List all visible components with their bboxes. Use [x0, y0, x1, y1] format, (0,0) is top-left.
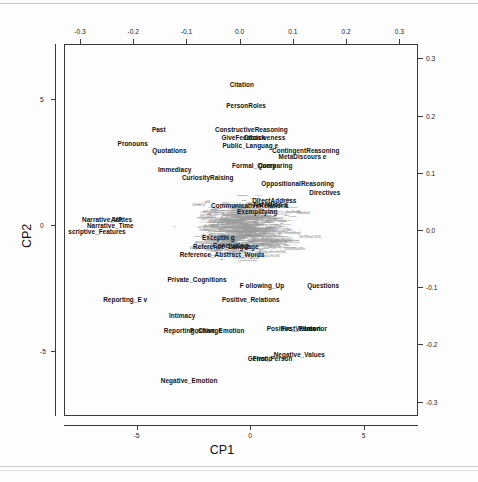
variable-label: Intimacy: [169, 311, 195, 318]
variable-label: Quotations: [152, 147, 186, 154]
variable-label: Reference_Abstract_Words: [180, 251, 265, 258]
variable-label: Comparing: [258, 161, 292, 168]
variable-label: scriptive_Features: [68, 228, 125, 235]
variable-label: Pronouns: [118, 140, 148, 147]
variable-label: OppositionalReasoning: [261, 180, 334, 187]
variable-labels-layer: CitationPersonRolesConstructiveReasoning…: [0, 0, 478, 482]
variable-label: Positive_Relations: [222, 295, 280, 302]
variable-label: Directives: [309, 189, 340, 196]
variable-label: Citation: [230, 81, 254, 88]
variable-label: Reference_Language: [193, 243, 259, 250]
x-axis-title: CP1: [210, 443, 234, 457]
variable-label: First_Person: [253, 355, 293, 362]
variable-label: PersonRoles: [226, 102, 266, 109]
variable-label: MetaDiscours e: [279, 153, 327, 160]
variable-label: Questions: [307, 281, 339, 288]
variable-label: Interior: [305, 325, 327, 332]
variable-label: F ollowing_Up: [240, 281, 284, 288]
variable-label: Public_Languag e: [223, 142, 279, 149]
variable-label: CuriosityRaising: [182, 173, 234, 180]
figure-canvas: GHUUBfaSkMcibk8.Am9BHuCEA0kP1wChHT_hwEol…: [0, 0, 478, 482]
variable-label: Exemplifying: [237, 207, 277, 214]
variable-label: Exceptin g: [202, 234, 235, 241]
variable-label: Immediacy: [158, 165, 192, 172]
variable-label: Private_Cognitions: [168, 276, 227, 283]
variable-label: Reporting_E v: [103, 295, 147, 302]
y-axis-title: CP2: [20, 224, 34, 248]
variable-label: Positive_Emotion: [190, 326, 244, 333]
variable-label: Negative_Emotion: [161, 376, 218, 383]
variable-label: Decisiveness: [244, 133, 285, 140]
variable-label: ConstructiveReasoning: [215, 126, 288, 133]
variable-label: Past: [152, 126, 166, 133]
